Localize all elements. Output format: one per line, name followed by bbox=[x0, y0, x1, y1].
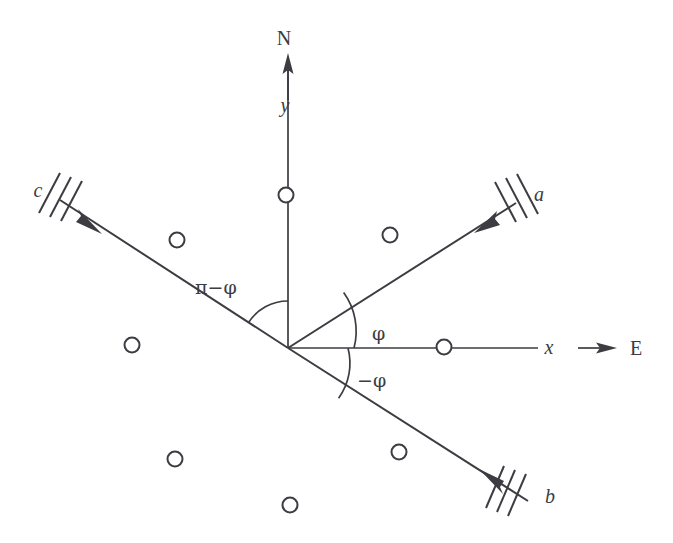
lattice-circle bbox=[437, 340, 452, 355]
x-axis-label: x bbox=[544, 336, 554, 358]
ray-a-hatch-marks bbox=[495, 174, 538, 222]
ray-b-group bbox=[288, 348, 528, 516]
lattice-circle bbox=[168, 452, 183, 467]
lattice-circle bbox=[125, 338, 140, 353]
compass-group bbox=[283, 53, 618, 354]
angle-neg-phi-label: −φ bbox=[357, 369, 386, 391]
ray-c-group bbox=[39, 173, 288, 348]
y-axis-label: y bbox=[279, 94, 290, 117]
labels-group: N y x E a b c φ −φ π−φ bbox=[34, 27, 643, 507]
ray-c-label: c bbox=[34, 179, 43, 201]
angle-pi-minus-phi-label: π−φ bbox=[195, 276, 237, 298]
arc-phi bbox=[344, 293, 357, 348]
ray-a-label: a bbox=[534, 183, 544, 205]
arc-pi-minus-phi bbox=[248, 301, 288, 323]
lattice-circle bbox=[383, 228, 398, 243]
ray-a-line bbox=[288, 203, 516, 348]
arc-neg-phi bbox=[339, 348, 350, 398]
lattice-circle bbox=[392, 445, 407, 460]
angle-phi-label: φ bbox=[372, 322, 385, 344]
east-label: E bbox=[630, 337, 642, 359]
angle-arcs-group bbox=[248, 293, 356, 399]
diagram-canvas: N y x E a b c φ −φ π−φ bbox=[0, 0, 673, 543]
beam-geometry-figure: N y x E a b c φ −φ π−φ bbox=[0, 0, 673, 543]
north-label: N bbox=[277, 27, 291, 49]
ray-b-label: b bbox=[545, 485, 555, 507]
lattice-circle bbox=[170, 233, 185, 248]
axes-group bbox=[288, 62, 538, 348]
ray-a-group bbox=[288, 174, 538, 348]
ray-a-arrow-head bbox=[474, 211, 500, 233]
ray-c-line bbox=[60, 200, 288, 348]
lattice-circle bbox=[279, 188, 294, 203]
ray-c-arrow-head bbox=[76, 209, 102, 234]
ray-c-hatch-marks bbox=[39, 173, 82, 221]
ray-b-hatch-marks bbox=[486, 466, 526, 516]
lattice-circle bbox=[283, 498, 298, 513]
